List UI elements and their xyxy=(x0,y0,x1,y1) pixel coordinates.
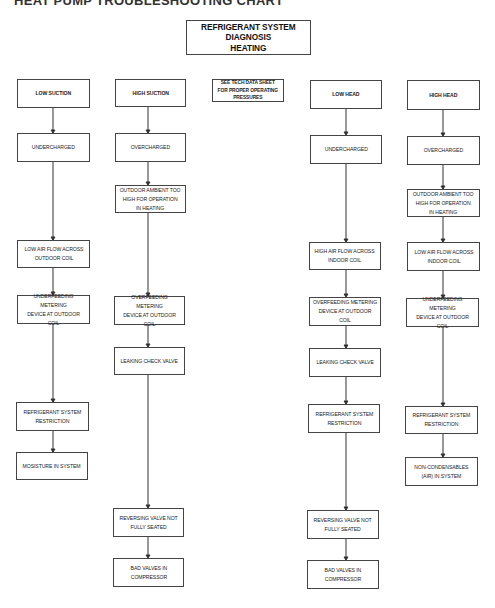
diagram-title-box: REFRIGERANT SYSTEM DIAGNOSIS HEATING xyxy=(186,20,311,55)
tech-data-note: SEE TECH DATA SHEET FOR PROPER OPERATING… xyxy=(212,79,284,102)
header-high-head: HIGH HEAD xyxy=(407,80,480,110)
cause-node: LOW AIR FLOW ACROSS INDOOR COIL xyxy=(407,242,480,271)
cause-node: REFRIGERANT SYSTEM RESTRICTION xyxy=(308,404,380,433)
cause-node: LEAKING CHECK VALVE xyxy=(309,348,381,377)
cause-node: NON-CONDENSABLES (AIR) IN SYSTEM xyxy=(405,457,478,486)
cause-node: BAD VALVES IN COMPRESSOR xyxy=(307,560,379,589)
cause-node: REFRIGERANT SYSTEM RESTRICTION xyxy=(405,406,478,434)
cause-node: REVERSING VALVE NOT FULLY SEATED xyxy=(113,508,184,537)
cause-node: OVERCHARGED xyxy=(407,136,480,165)
cause-node: UNDERFEEDING METERING DEVICE AT OUTDOOR … xyxy=(406,298,479,327)
cause-node: UNDERCHARGED xyxy=(17,133,90,162)
header-low-suction: LOW SUCTION xyxy=(17,79,90,108)
cause-node: REFRIGERANT SYSTEM RESTRICTION xyxy=(16,402,89,431)
diagram-title: REFRIGERANT SYSTEM DIAGNOSIS HEATING xyxy=(201,22,296,54)
cause-node: OVERFEEDING METERING DEVICE AT OUTDOOR C… xyxy=(309,297,381,326)
cause-node: OUTDOOR AMBIENT TOO HIGH FOR OPERATION I… xyxy=(407,189,480,217)
cause-node: UNDERCHARGED xyxy=(310,135,382,164)
cause-node: LEAKING CHECK VALVE xyxy=(114,347,185,375)
cause-node: UNDERFEEDING METERING DEVICE AT OUTDOOR … xyxy=(17,295,90,324)
header-high-suction: HIGH SUCTION xyxy=(115,79,186,107)
cause-node: REVERSING VALVE NOT FULLY SEATED xyxy=(307,510,379,539)
cause-node: BAD VALVES IN COMPRESSOR xyxy=(113,558,184,587)
cause-node: OUTDOOR AMBIENT TOO HIGH FOR OPERATION I… xyxy=(115,185,186,213)
cause-node: HIGH AIR FLOW ACROSS INDOOR COIL xyxy=(309,242,381,270)
cause-node: OVERFEEDING METERING DEVICE AT OUTDOOR C… xyxy=(114,296,185,325)
cause-node: OVERCHARGED xyxy=(115,133,186,162)
cause-node: MOSISTURE IN SYSTEM xyxy=(16,452,88,480)
cause-node: LOW AIR FLOW ACROSS OUTDOOR COIL xyxy=(17,240,90,268)
header-low-head: LOW HEAD xyxy=(310,80,382,109)
